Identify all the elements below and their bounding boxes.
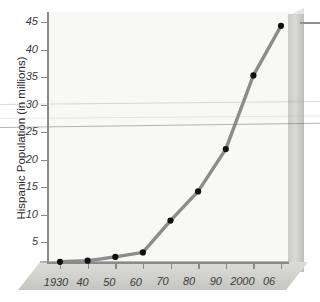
y-axis-tick (41, 22, 48, 23)
x-axis-tick-label: 80 (183, 275, 195, 287)
y-axis-tick (41, 105, 48, 106)
x-axis-tick (115, 262, 116, 269)
x-axis-tick-label: 1930 (44, 276, 68, 288)
y-axis-tick (41, 160, 48, 161)
scan-artifact-stub (300, 22, 320, 24)
x-axis-tick (198, 262, 199, 269)
x-axis-tick (60, 262, 61, 269)
x-axis-tick (253, 262, 254, 269)
x-axis-tick-label: 50 (103, 276, 115, 288)
x-axis-tick (143, 262, 144, 269)
y-axis-tick (41, 242, 48, 243)
x-axis-tick-label: 40 (77, 276, 89, 288)
y-axis-tick (41, 77, 48, 78)
x-axis-tick (226, 262, 227, 269)
chart-3d-right-wall (288, 14, 304, 272)
x-axis-tick (171, 262, 172, 269)
x-axis-tick (88, 262, 89, 269)
x-axis-tick-label: 90 (210, 275, 222, 287)
y-axis-title-wrapper: Hispanic Population (in millions) (15, 23, 27, 253)
x-axis-tick (281, 262, 282, 269)
y-axis-title: Hispanic Population (in millions) (15, 57, 27, 220)
x-axis-tick-label: 70 (156, 275, 168, 287)
y-axis-tick (41, 132, 48, 133)
x-axis-tick-label: 60 (130, 276, 142, 288)
x-axis-tick-label: 2000 (230, 275, 254, 287)
y-axis-tick (41, 187, 48, 188)
hispanic-population-line-chart: 51015202530354045 1930405060708090200006… (0, 0, 320, 302)
y-axis-tick (41, 215, 48, 216)
y-axis-tick (41, 50, 48, 51)
x-axis-tick-label: 06 (263, 275, 275, 287)
plot-area-background (48, 12, 288, 262)
